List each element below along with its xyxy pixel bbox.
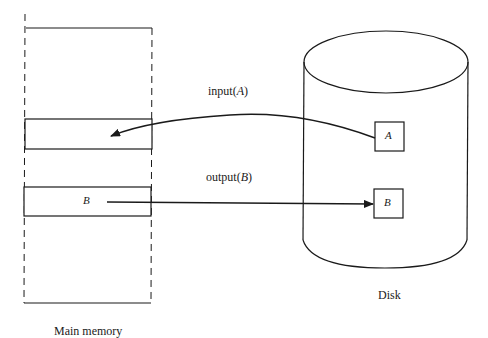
input-op-close: ) — [244, 84, 248, 98]
input-op-arg: A — [237, 84, 244, 98]
main-memory-box — [24, 14, 152, 303]
output-op-close: ) — [248, 170, 252, 184]
disk-block-b-label: B — [384, 196, 391, 208]
memory-block-a — [25, 119, 152, 149]
output-op-arg: B — [241, 170, 248, 184]
input-op-name: input — [208, 84, 233, 98]
diagram-canvas — [0, 0, 488, 338]
output-op-name: output — [206, 170, 237, 184]
memory-block-b-label: B — [83, 194, 90, 206]
input-operation-label: input(A) — [208, 84, 248, 99]
output-operation-label: output(B) — [206, 170, 252, 185]
disk-label: Disk — [378, 288, 401, 303]
main-memory-label: Main memory — [54, 324, 122, 338]
disk-block-a-label: A — [385, 129, 392, 141]
